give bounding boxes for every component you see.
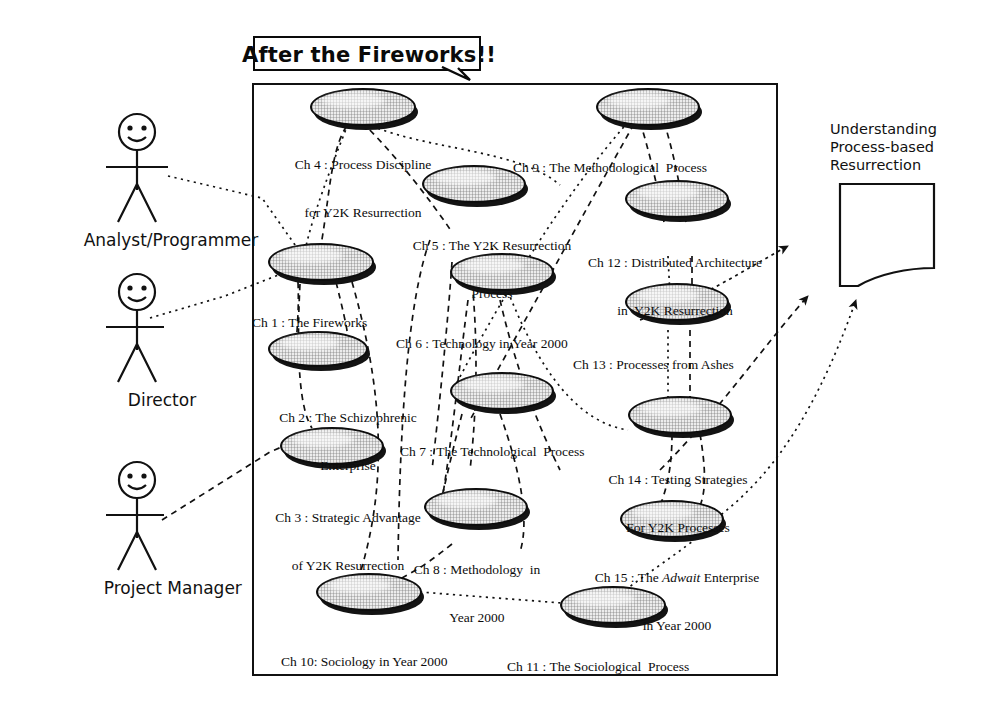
use-case-label-ch6: Ch 6 : Technology in Year 2000 bbox=[396, 304, 568, 368]
note-bracket-shape bbox=[828, 182, 948, 292]
use-case-label-ch10: Ch 10: Sociology in Year 2000 bbox=[281, 622, 448, 686]
ellipse-highlight bbox=[322, 93, 385, 109]
note-text: Understanding Process-based Resurrection bbox=[830, 120, 962, 174]
ellipse-highlight bbox=[462, 377, 524, 393]
use-case-ch7[interactable] bbox=[450, 372, 554, 410]
ellipse-shape bbox=[628, 396, 732, 434]
use-case-label-ch7: Ch 7 : The Technological Process bbox=[400, 412, 585, 476]
actor-label-project-manager: Project Manager bbox=[104, 578, 242, 598]
use-case-label-ch12: Ch 12 : Distributed Architecture in Y2K … bbox=[570, 223, 780, 335]
actor-director[interactable]: Director bbox=[96, 272, 246, 412]
ellipse-highlight bbox=[608, 93, 670, 109]
use-case-label-ch14: Ch 14 : Testing Strategies For Y2K Proce… bbox=[578, 440, 778, 552]
use-case-label-ch11: Ch 11 : The Sociological Process bbox=[507, 627, 689, 691]
stick-figure-icon bbox=[96, 272, 246, 390]
use-case-ch1[interactable] bbox=[268, 243, 374, 281]
ellipse-highlight bbox=[280, 248, 343, 264]
use-case-ch9[interactable] bbox=[596, 88, 700, 126]
title-box-tail bbox=[440, 66, 486, 88]
actor-analyst-programmer[interactable]: Analyst/Programmer bbox=[96, 112, 246, 252]
ellipse-shape bbox=[310, 88, 416, 126]
actor-label-analyst: Analyst/Programmer bbox=[84, 230, 259, 250]
stick-figure-icon bbox=[96, 460, 246, 578]
actor-label-director: Director bbox=[128, 390, 196, 410]
actor-project-manager[interactable]: Project Manager bbox=[96, 460, 256, 600]
ellipse-shape bbox=[268, 243, 374, 281]
use-case-ch14[interactable] bbox=[628, 396, 732, 434]
stick-figure-icon bbox=[96, 112, 246, 230]
use-case-label-ch13: Ch 13 : Processes from Ashes bbox=[573, 325, 734, 389]
use-case-label-ch9: Ch 9 : The Methodological Process bbox=[513, 128, 707, 192]
use-case-ch4[interactable] bbox=[310, 88, 416, 126]
use-case-label-ch1: Ch 1 : The Fireworks bbox=[252, 283, 367, 347]
annotation-note: Understanding Process-based Resurrection bbox=[828, 120, 960, 290]
ellipse-highlight bbox=[640, 401, 702, 417]
ellipse-shape bbox=[450, 372, 554, 410]
ellipse-shape bbox=[596, 88, 700, 126]
